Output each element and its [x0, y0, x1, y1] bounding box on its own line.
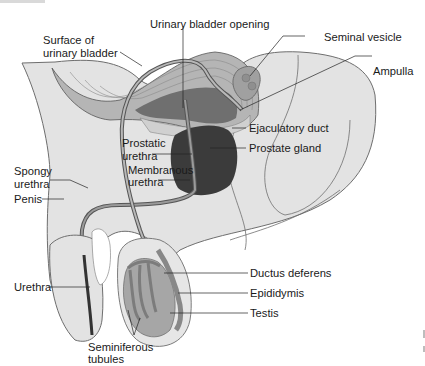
- label-seminal-vesicle: Seminal vesicle: [324, 31, 402, 44]
- label-prostate-gland: Prostate gland: [249, 142, 321, 155]
- label-seminiferous-tubules-2: tubules: [88, 353, 124, 366]
- label-membranous-urethra-1: Membranous: [128, 164, 193, 177]
- label-prostatic-urethra-2: urethra: [122, 150, 157, 163]
- label-ductus-deferens: Ductus deferens: [250, 267, 331, 280]
- label-testis: Testis: [250, 307, 279, 320]
- label-urethra: Urethra: [14, 281, 51, 294]
- label-prostatic-urethra-1: Prostatic: [122, 137, 166, 150]
- label-ejaculatory-duct: Ejaculatory duct: [249, 122, 329, 135]
- label-penis: Penis: [14, 193, 42, 206]
- label-membranous-urethra-2: urethra: [128, 176, 163, 189]
- label-spongy-urethra-2: urethra: [14, 178, 49, 191]
- label-spongy-urethra-1: Spongy: [14, 165, 52, 178]
- label-surface-of-bladder-2: urinary bladder: [43, 47, 118, 60]
- prostate-gland: [171, 125, 238, 195]
- label-bladder-opening: Urinary bladder opening: [150, 18, 269, 31]
- label-epididymis: Epididymis: [250, 287, 304, 300]
- label-surface-of-bladder-1: Surface of: [43, 34, 94, 47]
- label-seminiferous-tubules-1: Seminiferous: [88, 341, 153, 354]
- label-ampulla: Ampulla: [373, 65, 413, 78]
